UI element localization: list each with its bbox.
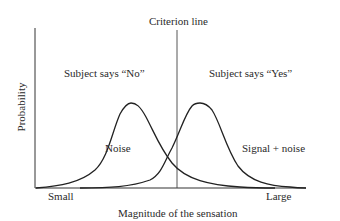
- y-axis-title: Probability: [15, 77, 27, 137]
- x-axis-small-label: Small: [48, 190, 74, 202]
- criterion-line-label: Criterion line: [149, 15, 208, 27]
- x-axis-large-label: Large: [266, 190, 291, 202]
- signal-plus-noise-label: Signal + noise: [242, 142, 305, 154]
- noise-curve: [36, 103, 275, 188]
- signal-detection-diagram: [0, 0, 340, 221]
- x-axis-title: Magnitude of the sensation: [118, 207, 237, 219]
- noise-label: Noise: [105, 142, 131, 154]
- subject-says-no-label: Subject says “No”: [64, 67, 145, 79]
- subject-says-yes-label: Subject says “Yes”: [209, 67, 292, 79]
